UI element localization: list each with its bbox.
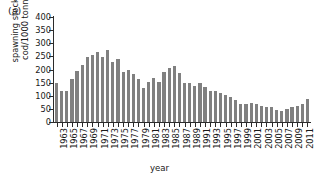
x-tick-mark	[277, 123, 278, 127]
x-tick-label: 1977	[131, 128, 140, 149]
bar	[173, 66, 176, 122]
bar	[301, 104, 304, 122]
bar	[265, 107, 268, 122]
x-tick-mark	[77, 123, 78, 127]
x-tick-mark	[272, 123, 273, 127]
x-tick-mark	[200, 123, 201, 127]
x-tick-mark	[154, 123, 155, 127]
bar	[55, 83, 58, 122]
bar	[157, 82, 160, 122]
bar	[244, 104, 247, 122]
bar	[224, 95, 227, 122]
bar	[260, 106, 263, 122]
x-tick-mark	[113, 123, 114, 127]
x-tick-mark	[215, 123, 216, 127]
bar	[142, 88, 145, 122]
x-tick-label: 1993	[213, 128, 222, 149]
bar	[122, 72, 125, 122]
bar	[106, 50, 109, 122]
bar	[147, 82, 150, 122]
bar	[209, 91, 212, 123]
x-tick-mark	[123, 123, 124, 127]
y-tick-mark	[49, 56, 53, 57]
bar	[101, 57, 104, 122]
bar	[75, 71, 78, 122]
x-tick-mark	[159, 123, 160, 127]
x-tick-mark	[67, 123, 68, 127]
y-tick-mark	[49, 96, 53, 97]
x-tick-label: 1985	[172, 128, 181, 149]
x-tick-mark	[179, 123, 180, 127]
x-tick-label: 1989	[193, 128, 202, 149]
bar	[234, 100, 237, 122]
x-tick-label: 2009	[295, 128, 304, 149]
bar	[132, 74, 135, 122]
x-tick-label: 1995	[224, 128, 233, 149]
bar	[81, 65, 84, 122]
y-tick-mark	[49, 70, 53, 71]
x-tick-mark	[231, 123, 232, 127]
x-tick-mark	[82, 123, 83, 127]
y-tick-mark	[49, 83, 53, 84]
x-tick-mark	[149, 123, 150, 127]
bar	[214, 91, 217, 122]
x-tick-mark	[210, 123, 211, 127]
bar	[188, 83, 191, 122]
x-tick-label: 1999	[244, 128, 253, 149]
x-tick-label: 1987	[183, 128, 192, 149]
x-tick-mark	[174, 123, 175, 127]
x-tick-label: 2007	[285, 128, 294, 149]
bar	[70, 79, 73, 122]
x-tick-mark	[164, 123, 165, 127]
x-tick-mark	[128, 123, 129, 127]
x-tick-mark	[220, 123, 221, 127]
bar	[255, 104, 258, 122]
x-tick-mark	[292, 123, 293, 127]
x-tick-label: 2003	[265, 128, 274, 149]
x-tick-label: 1973	[111, 128, 120, 149]
x-tick-mark	[57, 123, 58, 127]
x-tick-mark	[118, 123, 119, 127]
bar	[162, 72, 165, 122]
bar	[152, 78, 155, 122]
bar	[229, 97, 232, 122]
bar	[116, 59, 119, 122]
x-tick-label: 1991	[203, 128, 212, 149]
x-tick-label: 2001	[254, 128, 263, 149]
x-tick-mark	[87, 123, 88, 127]
bar	[111, 62, 114, 122]
bar	[198, 83, 201, 122]
bar	[178, 73, 181, 122]
x-tick-mark	[246, 123, 247, 127]
x-tick-mark	[62, 123, 63, 127]
bar	[60, 91, 63, 122]
bar	[91, 55, 94, 122]
x-tick-label: 1975	[121, 128, 130, 149]
bar	[65, 91, 68, 123]
bar	[280, 111, 283, 122]
y-axis-tick-labels: 050100150200250300350400	[26, 12, 51, 124]
bar	[137, 79, 140, 122]
x-tick-mark	[185, 123, 186, 127]
x-tick-mark	[241, 123, 242, 127]
x-tick-mark	[98, 123, 99, 127]
x-tick-label: 1969	[90, 128, 99, 149]
chart-figure: (a) spawning stock of cod/1000 tonnes 05…	[0, 0, 319, 179]
x-tick-mark	[108, 123, 109, 127]
x-tick-mark	[72, 123, 73, 127]
bar	[183, 83, 186, 122]
x-tick-mark	[195, 123, 196, 127]
y-tick-mark	[49, 122, 53, 123]
x-tick-mark	[307, 123, 308, 127]
x-tick-label: 1979	[142, 128, 151, 149]
x-tick-mark	[297, 123, 298, 127]
x-tick-label: 1963	[60, 128, 69, 149]
bar	[127, 70, 130, 122]
x-tick-mark	[302, 123, 303, 127]
bar	[285, 109, 288, 122]
bar	[270, 107, 273, 122]
x-tick-mark	[256, 123, 257, 127]
x-tick-label: 1983	[162, 128, 171, 149]
x-tick-label: 1967	[80, 128, 89, 149]
x-tick-mark	[282, 123, 283, 127]
